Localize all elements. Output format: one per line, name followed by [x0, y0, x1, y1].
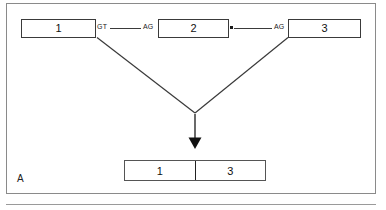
intron-line-1 [110, 28, 141, 29]
product-segment-2-label: 3 [227, 165, 233, 177]
product-segment-2: 3 [195, 161, 266, 180]
product-segment-1: 1 [125, 161, 195, 180]
spliced-product-box: 1 3 [124, 160, 266, 181]
splice-site-label-gt: GT [97, 23, 107, 30]
intron-line-2 [234, 28, 272, 29]
product-segment-1-label: 1 [157, 165, 163, 177]
panel-letter: A [17, 174, 24, 184]
exon-box-2: 2 [158, 19, 229, 38]
exon-box-1-label: 1 [55, 23, 61, 34]
figure-panel-a: 1 2 3 GT AG AG 1 3 A [0, 0, 386, 210]
exon-box-3-label: 3 [321, 23, 327, 34]
exon-box-2-label: 2 [190, 23, 196, 34]
splice-site-label-ag-1: AG [143, 23, 154, 30]
branch-point-dot-icon [230, 26, 233, 29]
splice-site-label-ag-2: AG [274, 23, 285, 30]
exon-box-3: 3 [288, 19, 361, 38]
panel-separator [6, 204, 376, 205]
exon-box-1: 1 [21, 19, 96, 38]
